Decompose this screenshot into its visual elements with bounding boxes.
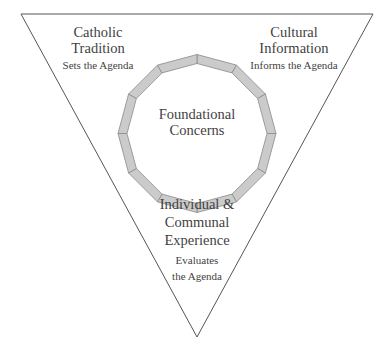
experience-title-line3: Experience xyxy=(164,232,229,248)
cultural-information-title-line1: Cultural xyxy=(270,24,318,40)
ring-segment xyxy=(118,134,136,174)
diagram-canvas xyxy=(0,0,390,349)
experience-title-line1: Individual & xyxy=(160,196,235,212)
experience-role-line1: Evaluates xyxy=(176,253,219,268)
ring-segment xyxy=(232,169,265,202)
ring-segment xyxy=(158,55,198,73)
ring-segment xyxy=(258,134,276,174)
foundational-concerns-label-line1: Foundational xyxy=(159,106,236,122)
catholic-tradition-title-line1: Catholic xyxy=(73,24,122,40)
catholic-tradition-role: Sets the Agenda xyxy=(63,58,134,73)
experience-title-line2: Communal xyxy=(165,214,229,230)
ring-segment xyxy=(118,94,136,134)
ring-segment xyxy=(258,94,276,134)
cultural-information-role: Informs the Agenda xyxy=(250,58,337,73)
foundational-concerns-label-line2: Concerns xyxy=(170,122,225,138)
experience-role-line2: the Agenda xyxy=(172,269,222,284)
catholic-tradition-title-line2: Tradition xyxy=(71,40,124,56)
ring-segment xyxy=(129,169,162,202)
ring-segment xyxy=(197,55,237,73)
ring-segment xyxy=(129,65,162,98)
cultural-information-title-line2: Information xyxy=(259,40,328,56)
